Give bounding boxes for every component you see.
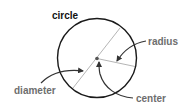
circle-title-label: circle: [52, 10, 79, 21]
radius-line: [97, 59, 135, 67]
center-point: [95, 57, 99, 61]
radius-label: radius: [148, 36, 178, 47]
center-label: center: [136, 93, 166, 104]
radius-arrow: [117, 41, 146, 61]
diameter-label: diameter: [14, 85, 56, 96]
circle-diagram: circle radius diameter center: [0, 0, 185, 108]
